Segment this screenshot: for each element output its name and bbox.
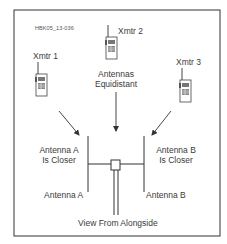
right-annotation: Antenna B Is Closer bbox=[153, 145, 199, 165]
center-annotation: Antennas Equidistant bbox=[93, 69, 139, 89]
figure-id: HBK05_13-036 bbox=[35, 25, 74, 31]
radio-icon-xmtr-2 bbox=[105, 25, 117, 59]
center-annotation-line-2: Equidistant bbox=[93, 79, 139, 89]
xmtr-3-label: Xmtr 3 bbox=[176, 57, 201, 67]
center-annotation-line-1: Antennas bbox=[93, 69, 139, 79]
arrow-from-xmtr-1 bbox=[59, 111, 79, 135]
xmtr-2-label: Xmtr 2 bbox=[118, 26, 143, 36]
antenna-b-label: Antenna B bbox=[146, 190, 186, 200]
radio-icon-xmtr-3 bbox=[179, 68, 191, 102]
xmtr-1-label: Xmtr 1 bbox=[33, 51, 58, 61]
left-annotation-line-1: Antenna A bbox=[36, 145, 82, 155]
left-annotation: Antenna A Is Closer bbox=[36, 145, 82, 165]
switch-box bbox=[111, 160, 120, 170]
left-annotation-line-2: Is Closer bbox=[36, 155, 82, 165]
right-annotation-line-2: Is Closer bbox=[153, 155, 199, 165]
radio-icon-xmtr-1 bbox=[35, 62, 47, 96]
arrow-from-xmtr-3 bbox=[152, 111, 171, 135]
right-annotation-line-1: Antenna B bbox=[153, 145, 199, 155]
diagram-canvas bbox=[0, 0, 227, 244]
antenna-a-label: Antenna A bbox=[44, 190, 83, 200]
caption: View From Alongside bbox=[78, 218, 154, 228]
